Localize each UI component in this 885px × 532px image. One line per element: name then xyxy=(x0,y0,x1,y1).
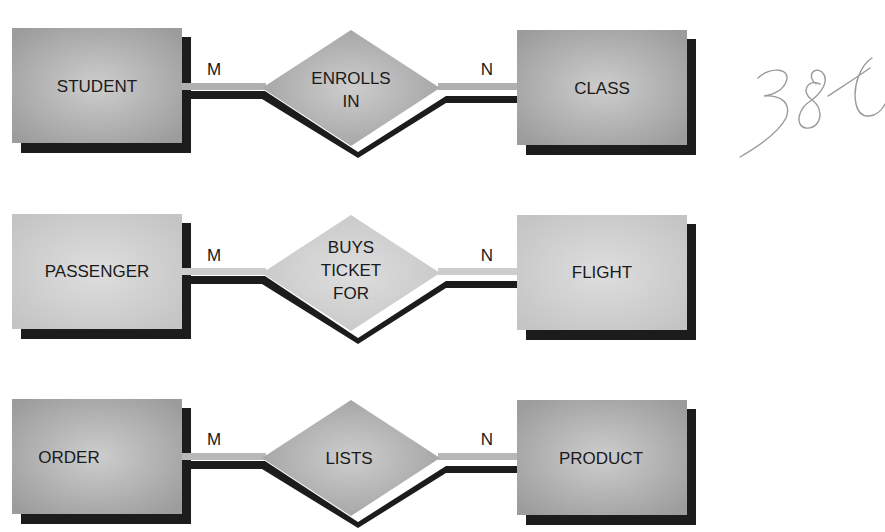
entity-box-product[interactable] xyxy=(517,400,687,515)
connector-line-right xyxy=(438,453,518,460)
connector-line-left xyxy=(182,268,266,275)
connector-line-right xyxy=(438,83,518,90)
entity-box-class[interactable] xyxy=(517,30,687,145)
entity-box-order[interactable] xyxy=(12,399,182,514)
entity-box-passenger[interactable] xyxy=(12,214,182,329)
relationship-row-2 xyxy=(12,214,696,344)
relationship-row-1 xyxy=(12,28,696,158)
connector-line-right xyxy=(438,268,518,275)
entity-box-flight[interactable] xyxy=(517,215,687,330)
connector-line-left xyxy=(182,453,266,460)
handwritten-annotation-icon xyxy=(740,58,885,157)
relationship-diamond-buys-ticket-for[interactable] xyxy=(262,215,440,331)
relationship-diamond-lists[interactable] xyxy=(262,400,440,516)
entity-box-student[interactable] xyxy=(12,28,182,143)
relationship-row-3 xyxy=(12,399,696,528)
er-diagram xyxy=(0,0,885,532)
connector-line-left xyxy=(182,83,266,90)
relationship-diamond-enrolls-in[interactable] xyxy=(262,30,440,146)
